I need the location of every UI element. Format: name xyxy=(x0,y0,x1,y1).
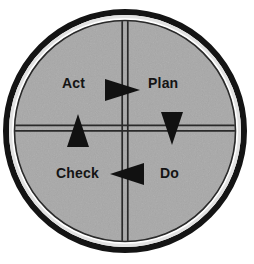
quadrant-label-check: Check xyxy=(56,166,99,180)
pdca-wheel-graphic xyxy=(0,0,254,264)
pdca-cycle-diagram: Act Plan Check Do xyxy=(0,0,254,264)
quadrant-label-plan: Plan xyxy=(148,76,178,90)
quadrant-label-do: Do xyxy=(160,166,179,180)
quadrant-label-act: Act xyxy=(62,76,85,90)
